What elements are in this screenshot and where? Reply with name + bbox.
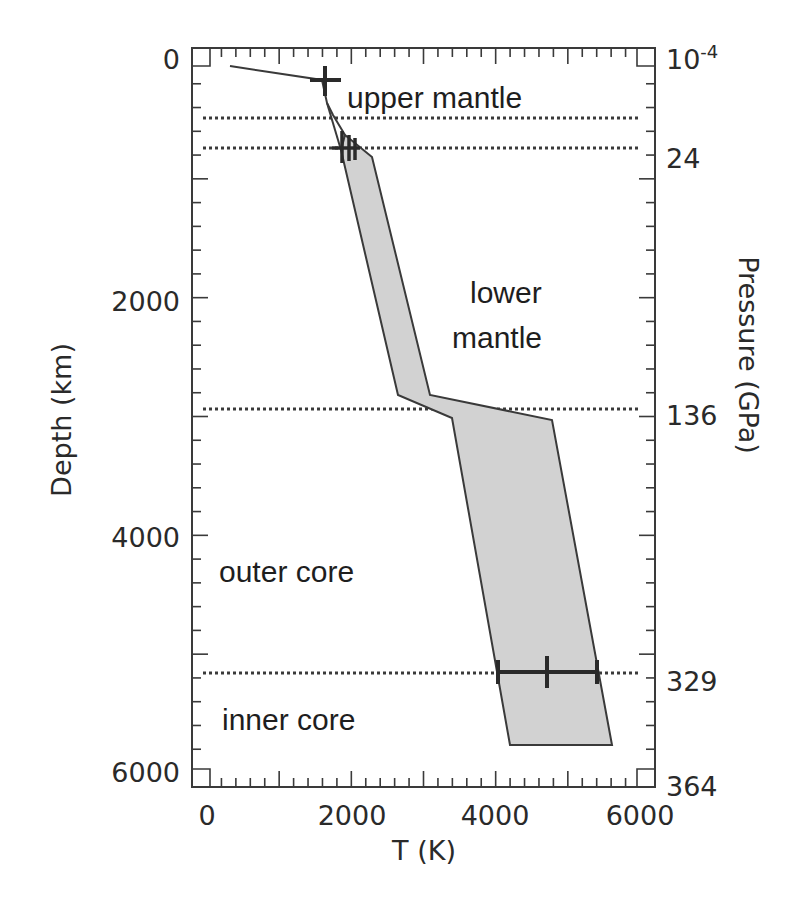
x-axis-ticks-top <box>221 48 625 64</box>
corner-box-bottom-left <box>192 769 210 787</box>
x-tick-label-6000: 6000 <box>606 800 675 831</box>
region-label-lower: lower <box>470 276 542 309</box>
p-tick-label-136: 136 <box>666 400 718 431</box>
error-bar-surface <box>310 66 341 96</box>
geotherm-chart: upper mantle lower mantle outer core inn… <box>0 0 804 915</box>
y-axis-left-title: Depth (km) <box>46 343 77 497</box>
y-tick-label-0: 0 <box>163 44 180 75</box>
region-label-outer-core: outer core <box>219 555 354 588</box>
p-tick-label-364: 364 <box>666 771 718 802</box>
region-label-upper-mantle: upper mantle <box>347 81 522 114</box>
y-axis-ticks-left <box>192 84 208 749</box>
upper-mantle-geotherm-line <box>230 66 345 135</box>
p-tick-surface-exponent: -4 <box>700 41 718 62</box>
x-axis-ticks-bottom <box>221 771 625 787</box>
x-tick-label-2000: 2000 <box>318 800 387 831</box>
x-tick-label-4000: 4000 <box>461 800 530 831</box>
geotherm-uncertainty-band <box>341 135 612 745</box>
y-tick-label-2000: 2000 <box>111 286 180 317</box>
region-label-mantle: mantle <box>452 321 542 354</box>
p-tick-label-surface: 10-4 <box>666 41 718 75</box>
y-axis-ticks-right <box>639 84 655 749</box>
x-tick-label-0: 0 <box>198 800 215 831</box>
region-label-inner-core: inner core <box>222 703 355 736</box>
y-axis-right-title: Pressure (GPa) <box>733 256 764 453</box>
p-tick-label-24: 24 <box>666 143 700 174</box>
y-tick-label-6000: 6000 <box>111 757 180 788</box>
y-tick-label-4000: 4000 <box>111 522 180 553</box>
corner-box-top-left <box>192 48 210 66</box>
corner-box-bottom-right <box>637 769 655 787</box>
p-tick-label-329: 329 <box>666 666 718 697</box>
p-tick-surface-base: 10 <box>666 44 700 75</box>
x-axis-title: T (K) <box>391 835 456 866</box>
corner-box-top-right <box>637 48 655 66</box>
